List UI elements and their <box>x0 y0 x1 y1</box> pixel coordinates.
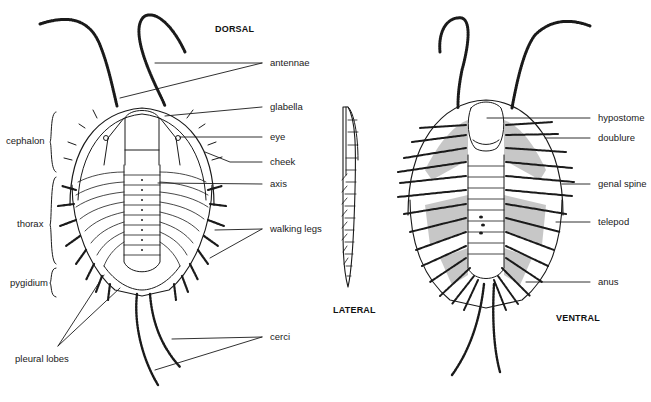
label-eye: eye <box>270 131 285 142</box>
view-title-dorsal: DORSAL <box>215 24 254 34</box>
label-hypostome: hypostome <box>598 112 644 123</box>
trilobite-diagram: DORSAL LATERAL VENTRAL antennae glabella… <box>0 0 651 402</box>
label-walking-legs: walking legs <box>270 223 322 234</box>
label-cephalon: cephalon <box>6 135 45 146</box>
trilobite-illustration <box>0 0 651 402</box>
view-title-ventral: VENTRAL <box>556 313 600 323</box>
label-doublure: doublure <box>598 132 635 143</box>
label-thorax: thorax <box>17 218 43 229</box>
label-telepod: telepod <box>598 216 629 227</box>
label-anus: anus <box>598 276 619 287</box>
label-pleural-lobes: pleural lobes <box>15 353 69 364</box>
view-title-lateral: LATERAL <box>333 305 376 315</box>
label-antennae: antennae <box>270 57 310 68</box>
label-cheek: cheek <box>270 156 295 167</box>
label-pygidium: pygidium <box>10 277 48 288</box>
label-cerci: cerci <box>270 331 290 342</box>
label-axis: axis <box>270 178 287 189</box>
label-glabella: glabella <box>270 101 303 112</box>
lateral-trilobite <box>342 107 358 287</box>
dorsal-trilobite <box>40 15 262 385</box>
label-genal-spine: genal spine <box>598 178 647 189</box>
